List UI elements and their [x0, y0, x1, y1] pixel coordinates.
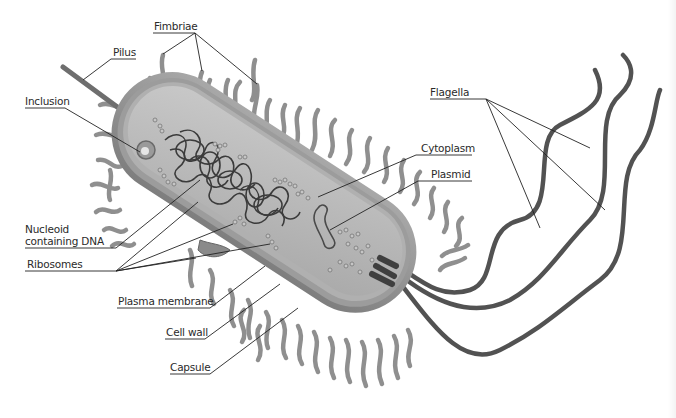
diagram-canvas — [0, 0, 676, 418]
label-nucleoid-line1: Nucleoid — [25, 223, 69, 235]
label-flagella: Flagella — [430, 86, 469, 98]
label-capsule: Capsule — [170, 361, 211, 373]
right-edge-strip — [668, 0, 676, 418]
label-cytoplasm: Cytoplasm — [421, 142, 475, 154]
label-plasmid: Plasmid — [431, 168, 471, 180]
inclusion-shape — [137, 141, 155, 159]
label-cell-wall: Cell wall — [166, 326, 208, 338]
label-fimbriae: Fimbriae — [154, 20, 198, 32]
bacterial-cell-diagram: Fimbriae Pilus Inclusion Flagella Cytopl… — [0, 0, 676, 418]
label-nucleoid-line2: containing DNA — [25, 235, 104, 247]
label-plasma-membrane: Plasma membrane — [118, 295, 214, 307]
label-inclusion: Inclusion — [25, 95, 70, 107]
label-pilus: Pilus — [113, 46, 136, 58]
label-ribosomes: Ribosomes — [27, 258, 83, 270]
